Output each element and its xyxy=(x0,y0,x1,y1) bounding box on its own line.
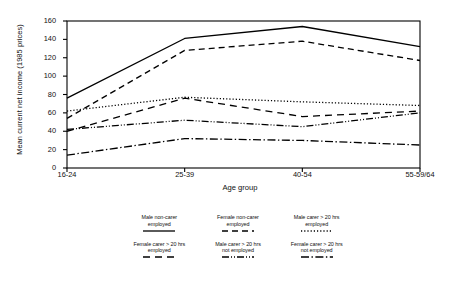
legend-line-swatch xyxy=(300,229,334,233)
legend-label-line1: Female carer > 20 hrs xyxy=(122,241,197,248)
figure-container: Mean current net income (1985 prices) 02… xyxy=(0,0,450,289)
legend-label-line1: Male non-carer xyxy=(122,214,197,221)
legend-item: Male non-careremployed xyxy=(122,214,197,233)
legend-label-line2: not employed xyxy=(279,247,354,254)
legend-label-line2: employed xyxy=(122,221,197,228)
legend-label-line2: not employed xyxy=(201,247,276,254)
legend-label-line1: Female non-carer xyxy=(201,214,276,221)
legend-label-line1: Female carer > 20 hrs xyxy=(279,241,354,248)
legend-item: Male carer > 20 hrsnot employed xyxy=(201,241,276,260)
series-line-4 xyxy=(67,113,420,130)
line-chart-svg xyxy=(0,0,450,200)
legend-line-swatch xyxy=(142,229,176,233)
legend-label-line1: Male carer > 20 hrs xyxy=(201,241,276,248)
legend-line-swatch xyxy=(142,255,176,259)
legend-item: Female non-careremployed xyxy=(201,214,276,233)
series-line-3 xyxy=(67,98,420,131)
legend-label-line2: employed xyxy=(201,221,276,228)
legend-line-swatch xyxy=(300,255,334,259)
legend-label-line1: Male carer > 20 hrs xyxy=(279,214,354,221)
series-line-2 xyxy=(67,97,420,111)
legend-item: Male carer > 20 hrsemployed xyxy=(279,214,354,233)
legend-label-line2: employed xyxy=(122,247,197,254)
legend-item: Female carer > 20 hrsemployed xyxy=(122,241,197,260)
legend-label-line2: employed xyxy=(279,221,354,228)
plot-frame xyxy=(67,21,420,168)
legend-line-swatch xyxy=(221,255,255,259)
legend-item: Female carer > 20 hrsnot employed xyxy=(279,241,354,260)
series-line-5 xyxy=(67,139,420,156)
chart-plot-area: Mean current net income (1985 prices) 02… xyxy=(0,0,450,200)
chart-legend: Male non-careremployedFemale non-carerem… xyxy=(0,214,450,289)
legend-line-swatch xyxy=(221,229,255,233)
